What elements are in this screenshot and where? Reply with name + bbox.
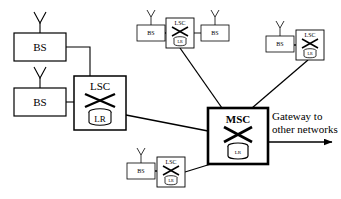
lr-label: LR [168, 178, 173, 183]
lr-label: LR [235, 150, 242, 155]
lsc-label: LSC [90, 80, 110, 92]
gateway-label-line2: other networks [272, 123, 338, 135]
antenna-icon [137, 148, 145, 155]
node-bs-bottom[interactable]: BS [127, 148, 155, 179]
link-bs-left-top-to-lsc-left [66, 47, 90, 76]
bs-label: BS [33, 96, 46, 108]
node-bs-top-left[interactable]: BS [137, 10, 165, 41]
antenna-icon [211, 10, 219, 17]
node-lsc-left[interactable]: LSC LR [74, 76, 126, 130]
antenna-icon [276, 21, 284, 28]
node-lsc-right[interactable]: LSC LR [296, 30, 324, 60]
node-bs-left-bottom[interactable]: BS [14, 67, 66, 116]
lsc-label: LSC [304, 32, 315, 38]
bs-label: BS [137, 168, 144, 174]
node-bs-right[interactable]: BS [266, 21, 294, 52]
lsc-label: LSC [174, 20, 185, 26]
bs-label: BS [147, 30, 154, 36]
node-bs-top-right[interactable]: BS [201, 10, 229, 41]
msc-label: MSC [226, 113, 251, 125]
lsc-label: LSC [165, 159, 176, 165]
gateway-label-line1: Gateway to [272, 110, 323, 122]
bs-label: BS [276, 41, 283, 47]
link-lsc-right-to-msc [252, 60, 308, 108]
link-lsc-top-to-msc [180, 48, 222, 108]
lr-label: LR [94, 114, 106, 124]
node-bs-left-top[interactable]: BS [14, 12, 66, 61]
node-lsc-bottom[interactable]: LSC LR [157, 157, 185, 187]
antenna-icon [34, 12, 46, 23]
node-lsc-top[interactable]: LSC LR [166, 18, 194, 48]
link-lsc-left-to-msc [126, 115, 208, 131]
bs-label: BS [211, 30, 218, 36]
lr-label: LR [177, 39, 182, 44]
gateway-annotation: Gateway to other networks [268, 110, 338, 142]
bs-label: BS [33, 41, 46, 53]
network-diagram: BS BS LSC LR BS [0, 0, 341, 199]
antenna-icon [147, 10, 155, 17]
node-msc-center[interactable]: MSC LR [208, 108, 268, 164]
antenna-icon [34, 67, 46, 78]
diagram-canvas: BS BS LSC LR BS [0, 0, 341, 199]
lr-label: LR [307, 51, 312, 56]
